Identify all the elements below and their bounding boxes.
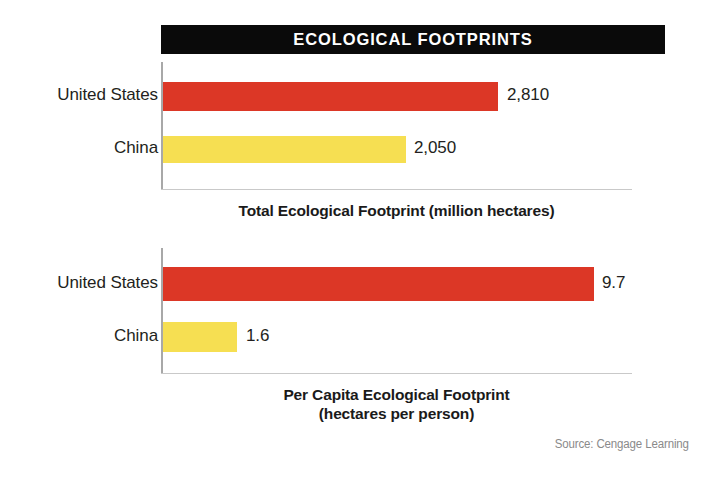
chart1-category-label-united-states: United States [57,85,158,105]
chart2-caption-line-1: Per Capita Ecological Footprint [161,385,632,404]
chart1-value-label-china: 2,050 [414,138,456,158]
chart1-bar-china [163,136,406,163]
chart2-bar-united-states [163,267,594,301]
chart2-baseline-axis [161,373,632,374]
chart1-value-label-united-states: 2,810 [507,85,549,105]
ecological-footprints-figure: { "figure": { "title": "ECOLOGICAL FOOTP… [0,0,707,477]
chart1-baseline-axis [161,189,632,190]
chart2-caption-line-2: (hectares per person) [161,404,632,423]
chart2-category-label-united-states: United States [57,273,158,293]
chart1-category-label-china: China [114,138,158,158]
chart2-caption: Per Capita Ecological Footprint (hectare… [161,385,632,423]
figure-title-banner: ECOLOGICAL FOOTPRINTS [161,25,665,54]
chart2-bar-china [163,322,237,352]
chart2-value-label-united-states: 9.7 [602,273,625,293]
chart1-bar-united-states [163,82,498,111]
chart1-caption-line-1: Total Ecological Footprint (million hect… [161,201,632,220]
chart2-category-label-china: China [114,326,158,346]
chart2-value-label-china: 1.6 [246,326,269,346]
page-title: ECOLOGICAL FOOTPRINTS [293,30,533,49]
source-credit: Source: Cengage Learning [555,437,689,451]
chart1-caption: Total Ecological Footprint (million hect… [161,201,632,220]
